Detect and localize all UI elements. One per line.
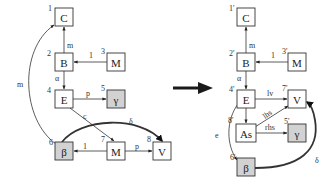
svg-text:E: E xyxy=(61,94,68,106)
edge-label: p xyxy=(135,142,139,151)
node-e: E 4 xyxy=(47,86,73,108)
svg-text:β: β xyxy=(243,162,249,174)
svg-text:1: 1 xyxy=(48,4,52,13)
svg-text:M: M xyxy=(292,57,302,69)
edge-label: δ xyxy=(129,117,133,126)
edge-label: 1 xyxy=(271,51,275,60)
edge-label: rhs xyxy=(265,123,275,132)
svg-text:3: 3 xyxy=(101,47,105,56)
svg-text:4': 4' xyxy=(229,85,235,94)
node-as: As 8' xyxy=(228,116,256,142)
edge-label: δ xyxy=(315,156,319,165)
svg-text:As: As xyxy=(240,128,252,140)
transform-arrow-icon xyxy=(173,82,213,94)
svg-text:B: B xyxy=(60,57,67,69)
node-beta: β 6' xyxy=(230,153,255,176)
left-graph: m 1 α p c δ 1 p m C 1 B 2 M 3 E 4 xyxy=(17,4,171,160)
svg-text:1': 1' xyxy=(229,4,235,13)
edge-label: lv xyxy=(267,89,273,98)
edge-label: p xyxy=(86,89,90,98)
edge-label: c xyxy=(83,112,87,121)
node-gamma: γ 5 xyxy=(101,84,125,108)
edge-label: m xyxy=(67,41,74,50)
svg-text:8: 8 xyxy=(147,135,151,144)
node-v: V 7' xyxy=(282,84,306,108)
svg-text:E: E xyxy=(243,94,250,106)
svg-text:2: 2 xyxy=(47,49,51,58)
node-gamma: γ 5' xyxy=(284,117,306,142)
edge-label: α xyxy=(237,74,242,83)
edge-label: 1 xyxy=(89,51,93,60)
node-e: E 4' xyxy=(229,85,255,108)
edge-label: e xyxy=(215,131,219,140)
edge-label: lhs xyxy=(261,108,274,121)
svg-text:6': 6' xyxy=(230,153,236,162)
edge-label: 1 xyxy=(83,142,87,151)
svg-text:4: 4 xyxy=(47,86,51,95)
svg-text:V: V xyxy=(158,146,166,158)
svg-text:γ: γ xyxy=(294,128,300,140)
node-b: B 2' xyxy=(229,49,255,71)
svg-text:2': 2' xyxy=(229,49,235,58)
svg-text:C: C xyxy=(60,12,67,24)
edge-beta-c-m xyxy=(29,25,56,144)
svg-text:5: 5 xyxy=(101,84,105,93)
node-m-bottom: M 7 xyxy=(101,135,125,160)
node-b: B 2 xyxy=(47,49,73,71)
svg-text:B: B xyxy=(242,57,249,69)
svg-text:6: 6 xyxy=(49,138,53,147)
svg-text:7': 7' xyxy=(282,84,288,93)
svg-text:7: 7 xyxy=(101,135,105,144)
node-m: M 3' xyxy=(282,47,306,71)
edge-label: m xyxy=(249,41,256,50)
svg-text:β: β xyxy=(61,146,67,158)
svg-text:C: C xyxy=(242,12,249,24)
node-m-top: M 3 xyxy=(101,47,125,71)
node-c: C 1' xyxy=(229,4,255,26)
node-c: C 1 xyxy=(48,4,73,26)
edge-label: α xyxy=(55,74,60,83)
svg-text:M: M xyxy=(111,146,121,158)
diagram-canvas: m 1 α p c δ 1 p m C 1 B 2 M 3 E 4 xyxy=(0,0,336,188)
svg-text:5': 5' xyxy=(284,117,290,126)
svg-text:V: V xyxy=(293,94,301,106)
svg-text:γ: γ xyxy=(113,94,119,106)
edge-label: m xyxy=(17,80,24,89)
right-graph: m 1 α lv lhs rhs e δ C 1' B 2' M 3' E 4' xyxy=(215,4,319,176)
svg-text:3': 3' xyxy=(282,47,288,56)
svg-text:8': 8' xyxy=(228,116,234,125)
svg-text:M: M xyxy=(111,57,121,69)
node-beta: β 6 xyxy=(49,138,73,160)
